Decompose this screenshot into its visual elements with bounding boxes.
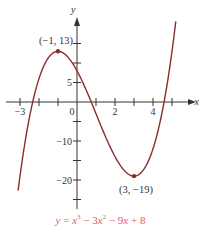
caption-const8: 8 <box>140 214 146 226</box>
caption-equals: = <box>63 214 69 226</box>
caption-plus: + <box>131 214 137 226</box>
x-tick-label: −3 <box>15 106 26 117</box>
critical-point-label: (−1, 13) <box>39 35 73 47</box>
y-tick-label: −20 <box>56 175 72 186</box>
y-tick-label: 5 <box>67 77 72 88</box>
caption-x3: x <box>123 214 128 226</box>
y-axis-arrow-icon <box>74 17 80 26</box>
caption-exp2: 2 <box>103 213 107 221</box>
x-axis-label: x <box>194 96 200 107</box>
axes <box>6 17 196 209</box>
x-tick-label: 2 <box>113 106 118 117</box>
critical-point-label: (3, −19) <box>119 184 153 196</box>
caption-y: y <box>56 214 61 226</box>
axis-labels: −30245−10−20xy <box>15 4 200 186</box>
caption-exp3: 3 <box>77 213 81 221</box>
critical-point-marker <box>132 174 136 178</box>
equation-caption: y = x3 − 3x2 − 9x + 8 <box>0 213 201 226</box>
x-tick-label: 0 <box>70 106 75 117</box>
critical-point-marker <box>56 49 60 53</box>
y-axis-label: y <box>70 4 76 15</box>
x-tick-label: 4 <box>151 106 156 117</box>
caption-minus2: − <box>109 214 115 226</box>
y-tick-label: −10 <box>56 136 72 147</box>
caption-minus: − <box>83 214 89 226</box>
cubic-graph: (−1, 13)(3, −19) −30245−10−20xy <box>0 0 201 212</box>
